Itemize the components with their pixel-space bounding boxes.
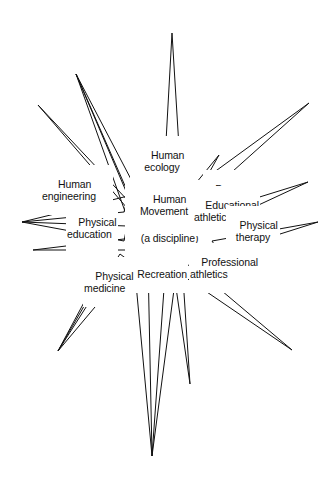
label-human-ecology: Human ecology [130,136,194,186]
label-physical-education: Physical education [66,203,118,253]
starburst-diagram: Human ecology Human engineering Human Mo… [0,0,333,486]
label-physical-medicine-text: Physical medicine [84,270,134,295]
label-physical-therapy-text: Physical therapy [236,219,278,244]
label-professional-athletics-text: Professional athletics [190,256,258,281]
label-human-ecology-text: Human ecology [144,149,184,174]
label-human-engineering-text: Human engineering [42,178,96,203]
label-a-discipline-text: (a discipline) [141,232,199,244]
label-physical-medicine: Physical medicine [83,257,135,307]
label-physical-education-text: Physical education [67,216,117,241]
label-professional-athletics: Professional athletics [189,243,259,293]
label-recreation-text: Recreation [137,268,187,280]
